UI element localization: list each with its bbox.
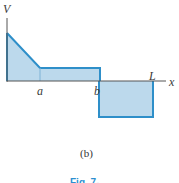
x-axis-label: x [169,76,174,88]
point-b-label: b [94,85,100,97]
region-a-to-b [40,68,100,81]
point-a-label: a [37,85,43,97]
v-axis-label: V [3,3,10,15]
region-b-to-L [99,81,153,117]
region-0-to-a [7,33,40,81]
figure-label: Fig. 7- [70,178,99,183]
subfigure-caption: (b) [80,148,93,159]
point-L-label: L [149,70,156,82]
